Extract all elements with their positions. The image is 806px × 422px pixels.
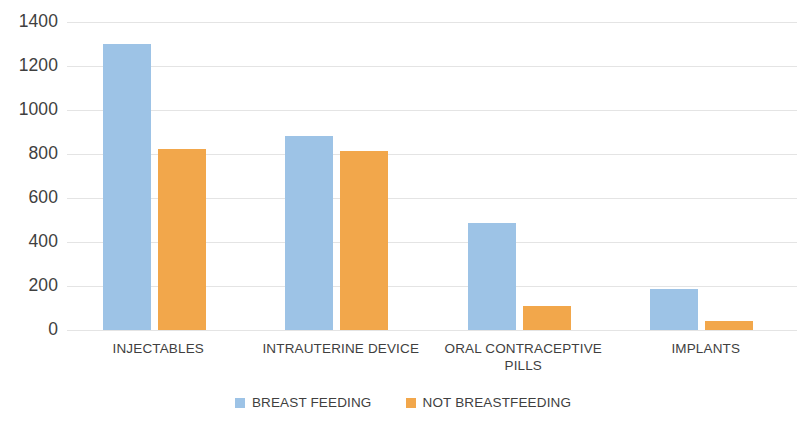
- bar-1-3: [705, 321, 753, 330]
- legend-item-0[interactable]: BREAST FEEDING: [235, 396, 372, 410]
- y-axis: 1400120010008006004002000: [0, 0, 58, 340]
- legend-swatch-orange: [406, 398, 416, 408]
- x-axis-label-3: IMPLANTS: [609, 340, 804, 357]
- bar-0-3: [650, 289, 698, 330]
- y-axis-tick-label: 200: [0, 277, 58, 295]
- legend-item-label: NOT BREASTFEEDING: [423, 396, 572, 410]
- x-axis-label-2: ORAL CONTRACEPTIVE PILLS: [426, 340, 621, 374]
- x-axis-label-1: INTRAUTERINE DEVICE: [244, 340, 439, 357]
- legend-item-1[interactable]: NOT BREASTFEEDING: [406, 396, 572, 410]
- x-axis-label-0: INJECTABLES: [61, 340, 256, 357]
- x-axis-category-labels: INJECTABLESINTRAUTERINE DEVICEORAL CONTR…: [67, 340, 797, 388]
- y-axis-tick-label: 1400: [0, 13, 58, 31]
- bar-0-2: [468, 223, 516, 330]
- legend-item-label: BREAST FEEDING: [252, 396, 372, 410]
- bar-1-2: [523, 306, 571, 330]
- chart-legend: BREAST FEEDINGNOT BREASTFEEDING: [0, 396, 806, 410]
- y-axis-tick-label: 1000: [0, 101, 58, 119]
- bar-0-0: [103, 44, 151, 330]
- gridline: [67, 330, 797, 331]
- bars-layer: [67, 22, 797, 330]
- plot-area: [67, 22, 797, 330]
- bar-1-0: [158, 149, 206, 331]
- y-axis-tick-label: 800: [0, 145, 58, 163]
- bar-0-1: [285, 136, 333, 330]
- y-axis-tick-label: 0: [0, 321, 58, 339]
- y-axis-tick-label: 1200: [0, 57, 58, 75]
- legend-swatch-blue: [235, 398, 245, 408]
- y-axis-tick-label: 600: [0, 189, 58, 207]
- bar-chart: 1400120010008006004002000 INJECTABLESINT…: [0, 0, 806, 422]
- y-axis-tick-label: 400: [0, 233, 58, 251]
- bar-1-1: [340, 151, 388, 330]
